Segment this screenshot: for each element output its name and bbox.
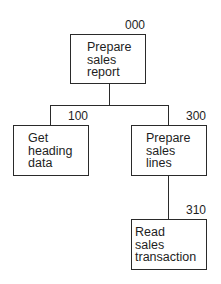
connector-to-100 (50, 105, 51, 125)
connector-horizontal-bus (50, 105, 169, 106)
node-label-line: Read (135, 226, 206, 239)
node-label-line: Prepare (87, 41, 145, 54)
node-label-line: Get (28, 132, 88, 145)
node-prepare-sales-lines: Prepare sales lines (131, 125, 207, 176)
node-label-line: transaction (135, 251, 206, 264)
connector-to-300 (168, 105, 169, 125)
node-number-000: 000 (125, 19, 145, 31)
node-label-line: lines (146, 157, 206, 170)
node-read-sales-transaction: Read sales transaction (131, 219, 207, 270)
connector-000-down (109, 83, 110, 105)
node-label-line: Prepare (146, 132, 206, 145)
node-label-line: report (87, 66, 145, 79)
node-prepare-sales-report: Prepare sales report (70, 34, 146, 84)
connector-300-to-310 (168, 175, 169, 219)
node-number-300: 300 (186, 110, 206, 122)
node-get-heading-data: Get heading data (13, 125, 89, 176)
node-number-100: 100 (68, 110, 88, 122)
node-label-line: data (28, 157, 88, 170)
node-number-310: 310 (186, 204, 206, 216)
